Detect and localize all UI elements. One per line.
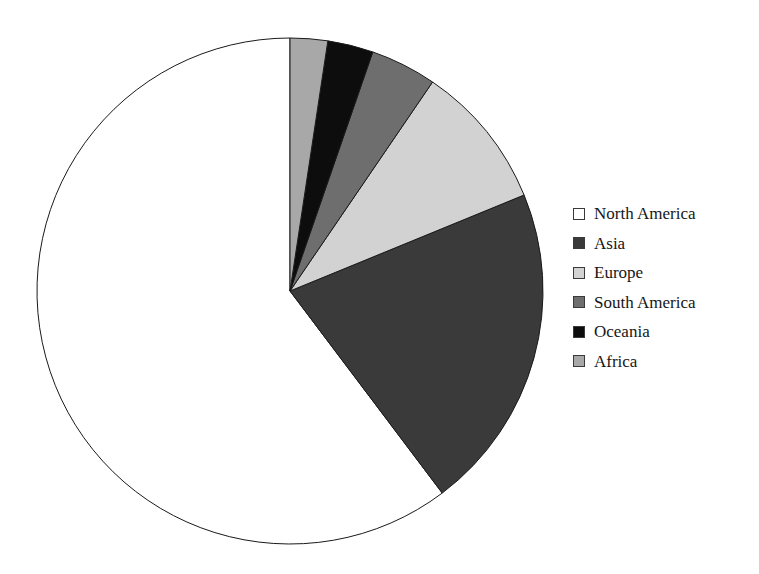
legend-item-label: North America [594,205,696,222]
legend-item-label: Oceania [594,323,650,340]
legend-item-label: Asia [594,235,625,252]
legend-item-oceania[interactable]: Oceania [573,317,753,347]
legend-item-africa[interactable]: Africa [573,347,753,377]
legend-item-europe[interactable]: Europe [573,258,753,288]
chart-legend: North AmericaAsiaEuropeSouth AmericaOcea… [573,199,753,376]
legend-item-label: Africa [594,353,637,370]
pie-chart-figure: North AmericaAsiaEuropeSouth AmericaOcea… [0,0,759,574]
legend-item-north-america[interactable]: North America [573,199,753,229]
legend-swatch-icon [573,355,585,367]
legend-swatch-icon [573,237,585,249]
legend-swatch-icon [573,208,585,220]
legend-item-south-america[interactable]: South America [573,288,753,318]
legend-item-asia[interactable]: Asia [573,229,753,259]
legend-item-label: Europe [594,264,643,281]
legend-item-label: South America [594,294,696,311]
legend-swatch-icon [573,326,585,338]
pie-slice-group [37,38,543,544]
legend-swatch-icon [573,296,585,308]
legend-swatch-icon [573,267,585,279]
